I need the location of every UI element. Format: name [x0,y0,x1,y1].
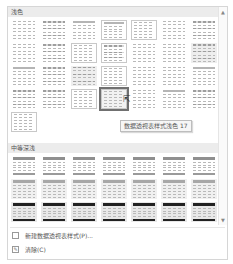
style-thumb-light[interactable] [11,20,37,40]
style-thumb-light[interactable] [191,43,217,63]
style-thumb-medium[interactable] [131,156,157,176]
style-thumb-light[interactable] [101,66,127,86]
style-thumb-medium[interactable] [11,156,37,176]
style-thumb-light[interactable] [71,89,97,109]
thumb-row-line [104,77,124,78]
thumb-row-line [13,185,35,186]
style-thumb-light[interactable] [131,66,157,86]
style-thumb-medium[interactable] [191,179,217,199]
thumb-row-line [103,191,125,192]
style-thumb-medium[interactable] [191,202,217,222]
style-thumb-light[interactable] [41,89,67,109]
style-thumb-light[interactable] [161,43,187,63]
thumb-row-line [133,84,155,85]
style-thumb-medium[interactable] [101,179,127,199]
style-thumb-light[interactable] [41,66,67,86]
style-thumb-medium[interactable] [41,202,67,222]
style-thumb-light[interactable] [41,43,67,63]
style-thumb-light[interactable] [191,20,217,40]
style-thumb-medium[interactable] [101,202,127,222]
menu-item-label: 清除(C) [25,245,46,254]
thumb-row-line [163,84,185,85]
style-thumb-light[interactable] [101,20,127,40]
thumb-row-line [133,58,155,59]
thumb-row-line [134,34,154,35]
thumb-row-line [163,101,185,102]
thumb-row-line [133,93,155,94]
thumb-row-line [104,91,124,92]
style-thumb-light[interactable] [161,20,187,40]
scroll-down-button[interactable]: ▼ [220,217,226,223]
thumb-row-line [13,24,35,25]
thumb-row-line [13,173,35,175]
style-thumb-medium[interactable] [161,202,187,222]
style-thumb-medium[interactable] [131,179,157,199]
thumb-row-line [163,211,185,212]
thumb-row-line [193,173,215,175]
thumb-row-line [193,107,215,108]
style-thumb-light[interactable] [131,20,157,40]
thumb-row-line [43,58,65,59]
thumb-row-line [73,213,95,214]
thumb-row-line [163,28,185,29]
thumb-row-line [133,197,155,198]
thumb-row-line [133,47,155,48]
thumb-row-line [14,120,34,121]
style-thumb-light[interactable] [11,43,37,63]
style-thumb-light[interactable] [71,66,97,86]
thumb-row-line [43,185,65,186]
thumb-row-line [163,47,185,48]
style-thumb-medium[interactable] [11,179,37,199]
thumb-row-line [13,188,35,189]
style-thumb-light[interactable] [161,66,187,86]
style-thumb-light[interactable] [131,89,157,109]
style-thumb-light[interactable] [11,112,37,132]
thumb-row-line [43,170,65,171]
thumb-row-line [193,194,215,195]
style-thumb-medium[interactable] [71,202,97,222]
thumb-row-line [103,173,125,175]
thumb-row-line [163,216,185,217]
thumb-row-line [73,203,95,206]
style-thumb-light[interactable] [161,89,187,109]
style-thumb-medium[interactable] [41,179,67,199]
thumb-row-line [193,211,215,212]
style-thumb-medium[interactable] [161,156,187,176]
thumb-row-line [103,213,125,214]
clear-menu-item[interactable]: ✎ 清除(C) [8,242,227,256]
style-thumb-medium[interactable] [161,179,187,199]
style-thumb-light[interactable] [71,20,97,40]
thumb-row-line [13,51,35,52]
thumb-row-line [43,38,65,39]
thumb-row-line [103,216,125,217]
thumb-row-line [13,216,35,217]
thumb-row-line [43,157,65,160]
gallery-scrollbar[interactable]: ▲ ▼ [218,7,227,225]
style-thumb-light[interactable] [101,43,127,63]
style-thumb-light[interactable] [191,89,217,109]
style-thumb-medium[interactable] [41,156,67,176]
thumb-row-line [13,61,35,62]
thumb-row-line [73,81,95,82]
style-thumb-medium[interactable] [101,156,127,176]
style-thumb-light[interactable] [41,20,67,40]
thumb-row-line [13,197,35,198]
style-thumb-light[interactable] [11,66,37,86]
thumb-row-line [133,173,155,175]
thumb-row-line [133,185,155,186]
style-thumb-light[interactable] [71,43,97,63]
new-pivot-style-menu-item[interactable]: 新建数据透视表样式(P)... [8,228,227,242]
style-thumb-light[interactable] [11,89,37,109]
style-thumb-medium[interactable] [71,156,97,176]
style-thumb-light[interactable] [191,66,217,86]
thumb-row-line [43,90,65,92]
style-thumb-medium[interactable] [131,202,157,222]
style-thumb-medium[interactable] [71,179,97,199]
style-thumb-light[interactable] [131,43,157,63]
style-gallery: 浅色 中等深浅 数据透视表样式浅色 17 ⇱ [8,7,218,225]
style-thumb-medium[interactable] [191,156,217,176]
style-thumb-medium[interactable] [11,202,37,222]
scroll-up-button[interactable]: ▲ [220,9,226,15]
thumb-row-line [193,167,215,168]
thumb-row-line [133,165,155,166]
